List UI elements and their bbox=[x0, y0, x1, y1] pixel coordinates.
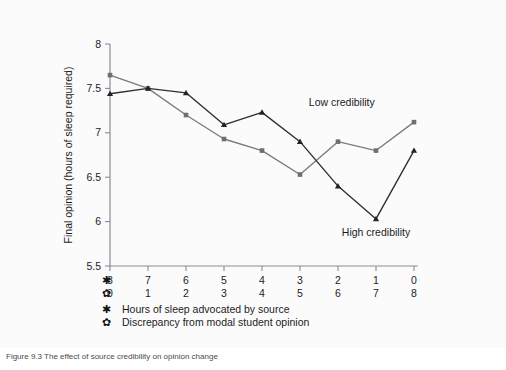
x-tick-label: 5 bbox=[297, 287, 303, 299]
x-tick-label: 2 bbox=[335, 274, 341, 286]
x-tick-label: 8 bbox=[411, 287, 417, 299]
data-point-marker bbox=[184, 113, 189, 118]
x-tick-label: 0 bbox=[107, 287, 113, 299]
x-tick-label: 7 bbox=[145, 274, 151, 286]
legend-label: Discrepancy from modal student opinion bbox=[122, 316, 310, 328]
data-point-marker bbox=[108, 73, 113, 78]
x-tick-label: 6 bbox=[183, 274, 189, 286]
y-tick-label: 6 bbox=[95, 215, 101, 227]
series-line-low-credibility bbox=[110, 75, 414, 174]
line-chart: 87.576.565.5Final opinion (hours of slee… bbox=[0, 0, 506, 348]
x-tick-label: 3 bbox=[221, 287, 227, 299]
flower-symbol-legend: ✿ bbox=[102, 316, 111, 328]
y-tick-label: 7 bbox=[95, 126, 101, 138]
figure-container: 87.576.565.5Final opinion (hours of slee… bbox=[0, 0, 506, 348]
data-point-marker bbox=[260, 148, 265, 153]
x-tick-label: 2 bbox=[183, 287, 189, 299]
data-point-marker bbox=[412, 120, 417, 125]
x-tick-label: 1 bbox=[145, 287, 151, 299]
y-tick-label: 6.5 bbox=[86, 171, 101, 183]
data-point-marker bbox=[259, 109, 265, 114]
x-tick-label: 1 bbox=[373, 274, 379, 286]
x-tick-label: 4 bbox=[259, 287, 265, 299]
data-point-marker bbox=[336, 139, 341, 144]
figure-caption: Figure 9.3 The effect of source credibil… bbox=[6, 352, 500, 362]
data-point-marker bbox=[222, 137, 227, 142]
y-tick-label: 5.5 bbox=[86, 260, 101, 272]
y-tick-label: 8 bbox=[95, 38, 101, 50]
series-annotation-high-credibility: High credibility bbox=[342, 226, 411, 238]
x-tick-label: 7 bbox=[373, 287, 379, 299]
x-tick-label: 8 bbox=[107, 274, 113, 286]
legend-label: Hours of sleep advocated by source bbox=[122, 303, 290, 315]
series-annotation-low-credibility: Low credibility bbox=[309, 96, 376, 108]
data-point-marker bbox=[411, 147, 417, 152]
x-tick-label: 4 bbox=[259, 274, 265, 286]
data-point-marker bbox=[298, 172, 303, 177]
y-tick-label: 7.5 bbox=[86, 82, 101, 94]
x-tick-label: 6 bbox=[335, 287, 341, 299]
x-tick-label: 5 bbox=[221, 274, 227, 286]
asterisk-symbol-legend: ✱ bbox=[102, 303, 111, 315]
x-tick-label: 3 bbox=[297, 274, 303, 286]
data-point-marker bbox=[374, 148, 379, 153]
x-tick-label: 0 bbox=[411, 274, 417, 286]
y-axis-title: Final opinion (hours of sleep required) bbox=[62, 67, 74, 244]
